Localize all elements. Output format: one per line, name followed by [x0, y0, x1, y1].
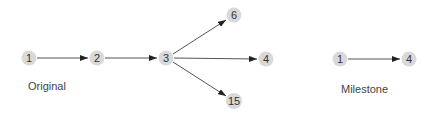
svg-text:15: 15 — [228, 95, 240, 107]
node-milestone-4: 4 — [402, 52, 417, 67]
svg-text:6: 6 — [231, 9, 237, 21]
node-original-1: 1 — [22, 51, 37, 66]
svg-text:2: 2 — [94, 52, 100, 64]
edge-3-15 — [173, 62, 226, 96]
edge-3-4 — [174, 58, 257, 59]
caption-milestone: Milestone — [341, 83, 388, 95]
node-original-4: 4 — [259, 52, 274, 67]
caption-original: Original — [28, 80, 66, 92]
svg-text:4: 4 — [263, 53, 269, 65]
node-original-3: 3 — [159, 51, 174, 66]
edge-3-6 — [173, 20, 226, 54]
svg-text:1: 1 — [337, 53, 343, 65]
svg-text:4: 4 — [406, 53, 412, 65]
node-original-15: 15 — [226, 93, 242, 109]
node-milestone-1: 1 — [333, 52, 348, 67]
diagram-canvas: 1 2 3 6 4 15 Original 1 4 Milestone — [0, 0, 437, 115]
node-original-2: 2 — [90, 51, 105, 66]
original-edges — [37, 20, 257, 96]
node-original-6: 6 — [227, 8, 242, 23]
svg-text:1: 1 — [26, 52, 32, 64]
svg-text:3: 3 — [163, 52, 169, 64]
